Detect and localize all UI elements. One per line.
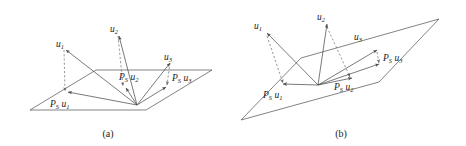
dropline-u1-a: [64, 50, 65, 91]
label-u1-a: u1: [56, 39, 64, 50]
dropline-u2-b: [327, 27, 350, 77]
vector-ps-u1-b: [283, 84, 318, 85]
panel-b: u1 u2 u3 PS u1 PS u2 PS u3 (b): [233, 0, 466, 146]
vector-ps-u2-a: [126, 88, 137, 105]
label-u2-b: u2: [317, 12, 326, 23]
plane-s-b: [241, 19, 439, 120]
vector-ps-u1-a: [68, 92, 137, 105]
dropline-u3-b: [377, 52, 379, 63]
label-u2-a: u2: [110, 24, 119, 35]
label-u3-a: u3: [164, 52, 173, 63]
vector-u2-b: [318, 24, 327, 85]
projection-figure: u1 u2 u3 PS u1 PS u2 PS u3 (a): [0, 0, 466, 146]
caption-b: (b): [335, 128, 347, 140]
vector-u1-b: [267, 33, 318, 85]
vector-ps-u3-a: [137, 87, 166, 105]
label-ps-u1-a: PS u1: [49, 99, 69, 110]
label-u1-b: u1: [254, 21, 262, 32]
panel-a: u1 u2 u3 PS u1 PS u2 PS u3 (a): [0, 0, 233, 146]
label-ps-u3-b: PS u3: [382, 53, 403, 64]
label-ps-u1-b: PS u1: [262, 90, 282, 101]
label-ps-u2-a: PS u2: [118, 72, 139, 83]
caption-a: (a): [102, 128, 113, 140]
panel-b-canvas: u1 u2 u3 PS u1 PS u2 PS u3 (b): [233, 0, 466, 146]
label-ps-u2-b: PS u2: [333, 82, 354, 93]
label-ps-u3-a: PS u3: [171, 73, 192, 84]
dropline-u1-b: [267, 36, 283, 83]
label-u3-b: u3: [354, 32, 363, 43]
panel-a-canvas: u1 u2 u3 PS u1 PS u2 PS u3 (a): [0, 0, 233, 146]
